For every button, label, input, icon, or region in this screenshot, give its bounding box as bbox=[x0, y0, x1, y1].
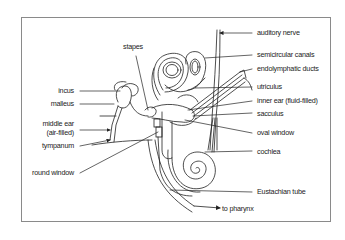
auditory-nerve-drawing bbox=[208, 30, 220, 152]
label-endolymphatic-ducts: endolymphatic ducts bbox=[257, 65, 319, 73]
label-incus: incus bbox=[40, 87, 74, 95]
label-eustachian-tube: Eustachian tube bbox=[257, 188, 306, 196]
leader-lines bbox=[80, 33, 252, 192]
label-auditory-nerve: auditory nerve bbox=[257, 29, 300, 37]
label-to-pharynx: to pharynx bbox=[222, 205, 254, 213]
label-oval-window: oval window bbox=[257, 129, 294, 137]
label-tympanum: tympanum bbox=[24, 142, 74, 150]
label-malleus: malleus bbox=[30, 100, 74, 108]
label-semicircular-canals: semicircular canals bbox=[257, 51, 314, 59]
windows-drawing bbox=[154, 112, 192, 196]
label-sacculus: sacculus bbox=[257, 110, 283, 118]
cochlea-drawing bbox=[168, 150, 216, 192]
label-cochlea: cochlea bbox=[257, 148, 280, 156]
ossicles-drawing bbox=[100, 82, 156, 142]
endolymphatic-ducts-drawing bbox=[190, 70, 252, 119]
semicircular-canals-drawing bbox=[152, 52, 206, 100]
label-utriculus: utriculus bbox=[257, 83, 282, 91]
label-round-window: round window bbox=[14, 169, 74, 177]
label-middle-ear: middle ear bbox=[24, 120, 74, 128]
label-stapes: stapes bbox=[123, 43, 143, 51]
label-middle-ear-air-filled: (air-filled) bbox=[24, 129, 74, 137]
eustachian-tube-drawing bbox=[92, 140, 220, 212]
label-inner-ear: inner ear (fluid-filled) bbox=[257, 97, 318, 105]
